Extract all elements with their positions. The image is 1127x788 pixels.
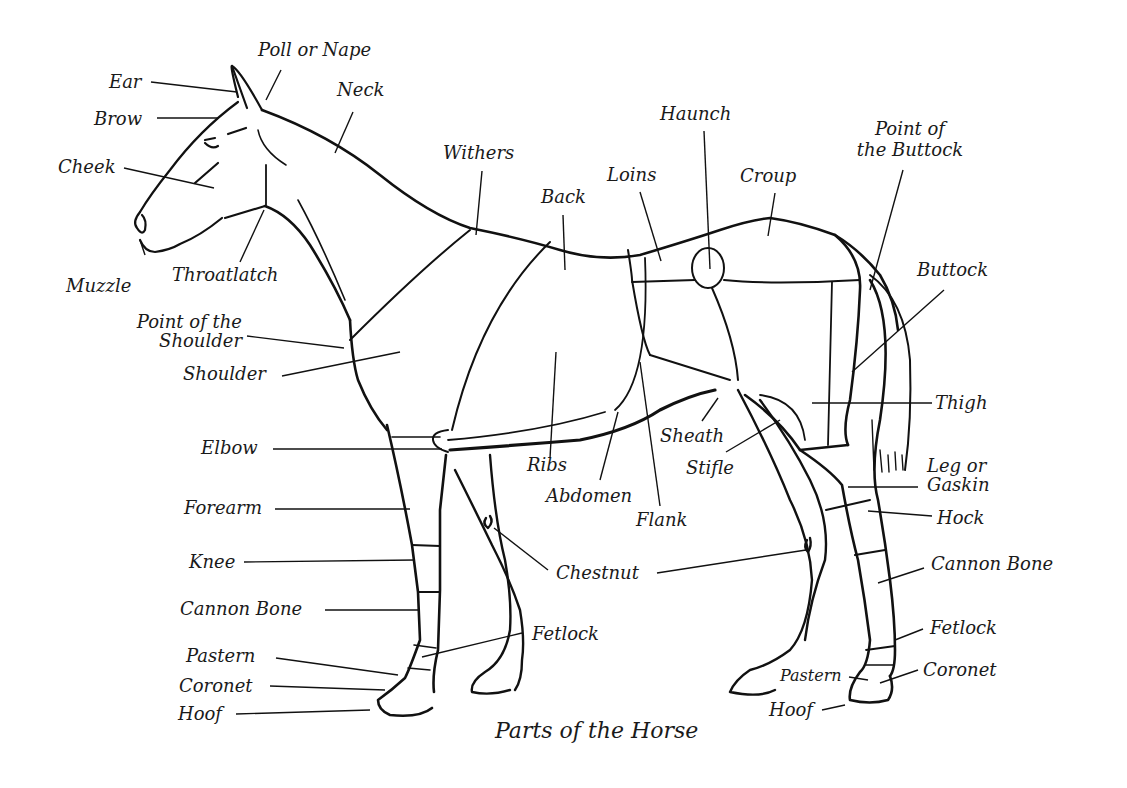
label-thigh: Thigh [935, 393, 987, 412]
label-flank: Flank [636, 510, 687, 529]
label-neck: Neck [337, 80, 384, 99]
label-cannon-bone-hind: Cannon Bone [931, 554, 1053, 573]
label-stifle: Stifle [686, 458, 734, 477]
label-cannon-bone-front: Cannon Bone [180, 599, 302, 618]
front-leg-far [455, 455, 523, 694]
label-pastern-front: Pastern [186, 646, 255, 665]
label-ribs: Ribs [527, 455, 567, 474]
label-point-of-buttock-line1: Point of [850, 119, 970, 138]
label-throatlatch: Throatlatch [172, 265, 278, 284]
label-point-of-buttock-line2: the Buttock [850, 140, 970, 159]
label-hoof-front: Hoof [178, 704, 222, 723]
topline [262, 110, 898, 330]
diagram-title: Parts of the Horse [495, 721, 698, 740]
label-back: Back [541, 187, 586, 206]
label-haunch: Haunch [660, 104, 731, 123]
label-gaskin-line2: Gaskin [927, 475, 990, 494]
head-outline [135, 66, 286, 252]
label-chestnut: Chestnut [556, 563, 639, 582]
label-knee: Knee [189, 552, 235, 571]
label-withers: Withers [443, 143, 514, 162]
label-loins: Loins [607, 165, 656, 184]
label-buttock: Buttock [917, 260, 988, 279]
label-poll-or-nape: Poll or Nape [258, 40, 371, 59]
hind-leg-near [745, 235, 895, 703]
label-elbow: Elbow [201, 438, 258, 457]
label-fetlock-hind: Fetlock [930, 618, 997, 637]
hind-leg-far [730, 390, 826, 695]
label-pastern-hind: Pastern [780, 666, 842, 685]
label-fetlock-front: Fetlock [532, 624, 599, 643]
label-sheath: Sheath [660, 426, 724, 445]
label-ear: Ear [109, 72, 141, 91]
label-muzzle: Muzzle [66, 276, 131, 295]
label-cheek: Cheek [58, 157, 116, 176]
horse-diagram: Ear Poll or Nape Neck Brow Cheek Muzzle … [0, 0, 1127, 788]
label-abdomen: Abdomen [546, 486, 632, 505]
label-shoulder: Shoulder [183, 364, 266, 383]
label-coronet-front: Coronet [179, 676, 253, 695]
label-coronet-hind: Coronet [923, 660, 997, 679]
label-croup: Croup [740, 166, 796, 185]
label-point-of-shoulder-line1: Point of the [100, 312, 242, 331]
label-forearm: Forearm [184, 498, 262, 517]
label-hock: Hock [937, 508, 985, 527]
label-hoof-hind: Hoof [769, 700, 813, 719]
label-brow: Brow [94, 109, 142, 128]
label-gaskin-line1: Leg or [927, 456, 986, 475]
label-point-of-shoulder-line2: Shoulder [100, 331, 242, 350]
front-leg-near [378, 425, 446, 716]
